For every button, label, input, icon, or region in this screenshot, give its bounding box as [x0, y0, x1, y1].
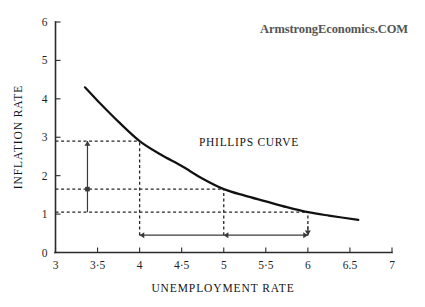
x-tick-label: 4: [137, 259, 143, 271]
y-tick-label: 0: [42, 247, 48, 259]
y-tick-label: 6: [42, 16, 48, 28]
x-tick-label: 7: [389, 259, 395, 271]
x-axis-title: UNEMPLOYMENT RATE: [151, 282, 294, 294]
x-tick-label: 4·5: [174, 259, 190, 271]
watermark-text: ArmstrongEconomics.COM: [260, 22, 408, 36]
y-tick-label: 1: [42, 208, 48, 220]
curve-label: PHILLIPS CURVE: [199, 136, 299, 148]
x-tick-label: 5·5: [258, 259, 274, 271]
x-tick-label: 6.5: [343, 259, 358, 271]
y-tick-label: 3: [42, 131, 48, 143]
x-tick-label: 5: [221, 259, 227, 271]
phillips-curve-chart: ArmstrongEconomics.COM 33·544·555·566.57…: [0, 0, 425, 307]
x-tick-label: 3·5: [90, 259, 106, 271]
inflation-mid-marker: [85, 187, 90, 192]
x-tick-label: 3: [53, 259, 59, 271]
phillips-curve-figure: ArmstrongEconomics.COM 33·544·555·566.57…: [0, 0, 425, 307]
y-tick-label: 4: [42, 93, 48, 105]
y-tick-label: 2: [42, 170, 48, 182]
y-tick-label: 5: [42, 54, 48, 66]
y-axis-title: INFLATION RATE: [12, 85, 24, 189]
x-tick-label: 6: [305, 259, 311, 271]
chart-background: [0, 0, 425, 307]
